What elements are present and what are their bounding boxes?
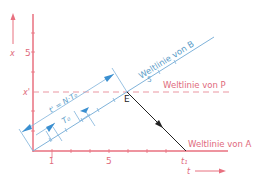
horizontal-tick-label-1: 1 — [49, 157, 54, 166]
event-e-label: E — [124, 94, 130, 104]
t0-label: T₀ — [60, 113, 72, 125]
x-prime-label: x' — [22, 88, 30, 97]
horizontal-tick-label-5: 5 — [106, 156, 112, 166]
worldline-b-tick-label-5: 5 — [147, 75, 152, 84]
vertical-axis-label: x — [9, 49, 15, 58]
t-prime-arrow-left-icon — [22, 124, 32, 132]
horizontal-axis-label: t — [187, 167, 191, 176]
x-direction-arrow-icon — [11, 13, 16, 44]
t-prime-dimension — [19, 68, 127, 151]
signal-line — [127, 92, 186, 151]
t1-label: t₁ — [181, 157, 187, 166]
vertical-tick-label-5: 5 — [25, 48, 31, 58]
t-prime-arrow-right-icon — [104, 74, 114, 82]
t-direction-arrow-icon — [195, 169, 226, 174]
worldline-b-label: Weltlinie von B — [137, 39, 196, 81]
spacetime-diagram: x 5 1 5 t₁ t x' Weltlinie von P Weltlini… — [0, 0, 259, 190]
t0-arrow-right-icon — [80, 107, 89, 113]
worldline-p-label: Weltlinie von P — [163, 80, 226, 90]
worldline-a-label: Weltlinie von A — [188, 139, 252, 149]
